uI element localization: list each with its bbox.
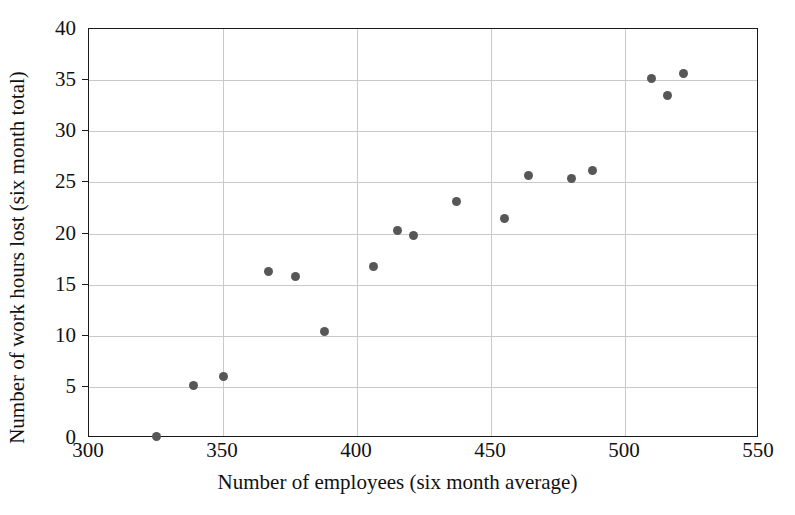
gridline-horizontal [89, 285, 757, 286]
data-point [524, 171, 533, 180]
x-axis-tick-label: 550 [742, 440, 774, 461]
y-axis-tick-label: 30 [55, 120, 76, 141]
gridline-horizontal [89, 336, 757, 337]
data-point [647, 74, 656, 83]
y-axis-tick-label: 35 [55, 69, 76, 90]
data-point [500, 214, 509, 223]
plot-area [88, 28, 758, 437]
data-point [264, 267, 273, 276]
y-axis-tick-label: 25 [55, 171, 76, 192]
data-point [219, 372, 228, 381]
x-axis-tick-label: 350 [206, 440, 238, 461]
x-axis-tick-label: 500 [608, 440, 640, 461]
y-axis-tick-label: 10 [55, 324, 76, 345]
y-axis-tick-label: 15 [55, 273, 76, 294]
gridline-vertical [357, 29, 358, 436]
scatter-chart-figure: Number of work hours lost (six month tot… [0, 0, 795, 515]
x-axis-tick-label: 450 [474, 440, 506, 461]
gridline-horizontal [89, 80, 757, 81]
data-point [452, 197, 461, 206]
y-axis-tick-label: 40 [55, 18, 76, 39]
gridline-vertical [491, 29, 492, 436]
data-point [369, 262, 378, 271]
data-point [291, 272, 300, 281]
gridline-horizontal [89, 182, 757, 183]
y-axis-title: Number of work hours lost (six month tot… [0, 0, 34, 515]
y-axis-tick-label: 20 [55, 222, 76, 243]
data-point [567, 174, 576, 183]
x-axis-tick-label: 300 [72, 440, 104, 461]
data-point [409, 231, 418, 240]
data-point [393, 226, 402, 235]
gridline-horizontal [89, 131, 757, 132]
data-point [152, 432, 161, 441]
data-point [588, 166, 597, 175]
x-axis-title: Number of employees (six month average) [0, 470, 795, 495]
x-axis-tick-label: 400 [340, 440, 372, 461]
gridline-vertical [625, 29, 626, 436]
data-point [679, 69, 688, 78]
data-point [663, 91, 672, 100]
gridline-horizontal [89, 234, 757, 235]
y-axis-tick-label: 5 [66, 375, 77, 396]
data-point [189, 381, 198, 390]
